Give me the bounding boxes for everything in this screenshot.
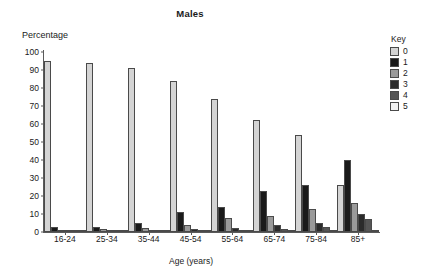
- legend-swatch-icon: [390, 102, 399, 111]
- x-tick-label: 25-34: [86, 234, 128, 244]
- bar[interactable]: [365, 219, 372, 232]
- bar[interactable]: [211, 99, 218, 232]
- bar[interactable]: [316, 223, 323, 232]
- bar[interactable]: [156, 230, 163, 232]
- x-tick-label: 45-54: [170, 234, 212, 244]
- legend-item[interactable]: 0: [390, 47, 436, 56]
- legend-item[interactable]: 4: [390, 91, 436, 100]
- bar[interactable]: [170, 81, 177, 232]
- legend-swatch-icon: [390, 91, 399, 100]
- bar-group: 45-54: [170, 52, 212, 232]
- y-tick-label: 30: [30, 173, 39, 183]
- bar-group: 16-24: [44, 52, 86, 232]
- x-tick-label: 75-84: [295, 234, 337, 244]
- bar[interactable]: [281, 229, 288, 232]
- bar-group-bars: [211, 52, 253, 232]
- x-tick-label: 85+: [337, 234, 379, 244]
- bar-group-bars: [170, 52, 212, 232]
- bar[interactable]: [86, 63, 93, 232]
- x-tick-mark: [358, 232, 359, 235]
- bar[interactable]: [295, 135, 302, 232]
- y-tick-label: 90: [30, 65, 39, 75]
- bar[interactable]: [372, 230, 379, 232]
- legend-item[interactable]: 2: [390, 69, 436, 78]
- legend-swatch-icon: [390, 80, 399, 89]
- legend-item[interactable]: 5: [390, 102, 436, 111]
- bar[interactable]: [351, 203, 358, 232]
- legend-swatch-icon: [390, 69, 399, 78]
- legend-item[interactable]: 3: [390, 80, 436, 89]
- y-tick-label: 20: [30, 191, 39, 201]
- bar-group: 55-64: [212, 52, 254, 232]
- x-tick-label: 35-44: [128, 234, 170, 244]
- x-tick-mark: [107, 232, 108, 235]
- legend-item-label: 4: [403, 91, 408, 100]
- bar[interactable]: [198, 230, 205, 232]
- bar[interactable]: [218, 207, 225, 232]
- legend-item-label: 2: [403, 69, 408, 78]
- x-tick-label: 55-64: [212, 234, 254, 244]
- bar-group: 35-44: [128, 52, 170, 232]
- bar[interactable]: [107, 230, 114, 232]
- bar[interactable]: [309, 209, 316, 232]
- bar-group-bars: [128, 52, 170, 232]
- bar-group: 85+: [337, 52, 379, 232]
- bar[interactable]: [337, 185, 344, 232]
- y-tick-label: 70: [30, 101, 39, 111]
- x-axis-line: [43, 232, 380, 233]
- bar[interactable]: [114, 230, 121, 232]
- bar[interactable]: [142, 228, 149, 233]
- bar[interactable]: [93, 227, 100, 232]
- x-tick-mark: [65, 232, 66, 235]
- bar[interactable]: [358, 214, 365, 232]
- bar[interactable]: [100, 229, 107, 232]
- legend-title: Key: [390, 34, 436, 44]
- bar[interactable]: [225, 218, 232, 232]
- bar-group: 65-74: [253, 52, 295, 232]
- bar[interactable]: [302, 185, 309, 232]
- bar[interactable]: [323, 227, 330, 232]
- bar-group-bars: [44, 52, 86, 232]
- y-tick-label: 60: [30, 119, 39, 129]
- bar[interactable]: [191, 229, 198, 232]
- bar[interactable]: [253, 120, 260, 232]
- bar[interactable]: [344, 160, 351, 232]
- x-axis-label: Age (years): [0, 256, 382, 266]
- chart-title: Males: [0, 8, 380, 19]
- bar[interactable]: [267, 216, 274, 232]
- x-tick-mark: [232, 232, 233, 235]
- bar[interactable]: [135, 223, 142, 232]
- bar[interactable]: [260, 191, 267, 232]
- bar[interactable]: [239, 230, 246, 232]
- x-tick-label: 16-24: [44, 234, 86, 244]
- bar-group: 25-34: [86, 52, 128, 232]
- y-tick-label: 10: [30, 209, 39, 219]
- legend-item[interactable]: 1: [390, 58, 436, 67]
- legend-item-label: 0: [403, 47, 408, 56]
- bar[interactable]: [51, 227, 58, 232]
- x-tick-mark: [191, 232, 192, 235]
- y-tick-label: 50: [30, 137, 39, 147]
- bar[interactable]: [128, 68, 135, 232]
- bar-group-bars: [295, 52, 337, 232]
- bar[interactable]: [177, 212, 184, 232]
- bar[interactable]: [274, 225, 281, 232]
- bar[interactable]: [44, 61, 51, 232]
- legend-rows: 012345: [390, 47, 436, 111]
- bar[interactable]: [58, 230, 65, 232]
- x-tick-label: 65-74: [253, 234, 295, 244]
- bar[interactable]: [72, 230, 79, 232]
- bar[interactable]: [232, 228, 239, 233]
- y-axis-label: Percentage: [22, 30, 68, 40]
- y-tick-label: 0: [34, 227, 39, 237]
- bar-group: 75-84: [295, 52, 337, 232]
- legend-item-label: 5: [403, 102, 408, 111]
- bar[interactable]: [149, 230, 156, 232]
- bar[interactable]: [65, 230, 72, 232]
- legend: Key 012345: [390, 34, 436, 113]
- bar-group-bars: [337, 52, 379, 232]
- legend-item-label: 1: [403, 58, 408, 67]
- x-tick-mark: [149, 232, 150, 235]
- bar[interactable]: [184, 225, 191, 232]
- bar-group-bars: [86, 52, 128, 232]
